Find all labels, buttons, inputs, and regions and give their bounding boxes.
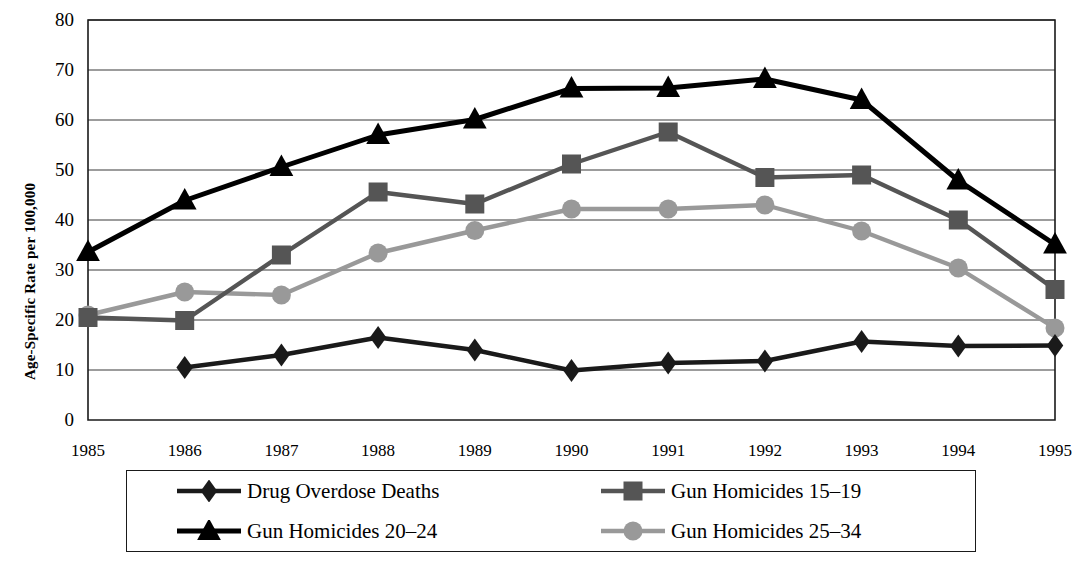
diamond-marker	[757, 350, 774, 373]
diamond-marker	[467, 339, 484, 362]
square-marker	[755, 168, 774, 187]
circle-marker	[852, 222, 871, 241]
diamond-icon	[175, 480, 243, 502]
series-line	[88, 205, 1055, 328]
triangle-marker	[1043, 232, 1067, 254]
legend-label: Gun Homicides 20–24	[247, 519, 437, 544]
square-marker	[79, 308, 98, 327]
diamond-marker	[853, 330, 870, 353]
series-drug-overdose-deaths	[176, 326, 1063, 382]
gridlines	[88, 20, 1055, 370]
square-marker	[659, 123, 678, 142]
square-marker	[175, 311, 194, 330]
data-series-layer	[76, 67, 1067, 383]
circle-marker	[369, 244, 388, 263]
square-marker	[369, 183, 388, 202]
square-marker	[465, 195, 484, 214]
diamond-marker	[660, 352, 677, 375]
circle-marker	[465, 221, 484, 240]
circle-icon	[599, 520, 667, 542]
diamond-marker	[370, 326, 387, 349]
legend-item[interactable]: Gun Homicides 15–19	[551, 479, 975, 504]
circle-marker	[272, 286, 291, 305]
square-marker	[1046, 280, 1065, 299]
legend-label: Drug Overdose Deaths	[247, 479, 439, 504]
square-marker	[624, 482, 643, 501]
chart-figure: Age-Specific Rate per 100,000 0102030405…	[0, 0, 1075, 572]
circle-marker	[755, 196, 774, 215]
diamond-marker	[201, 480, 218, 502]
square-marker	[949, 211, 968, 230]
legend-item[interactable]: Gun Homicides 20–24	[127, 519, 551, 544]
square-marker	[272, 246, 291, 265]
square-marker	[562, 155, 581, 174]
circle-marker	[624, 522, 643, 541]
legend-label: Gun Homicides 15–19	[671, 479, 861, 504]
diamond-marker	[1047, 334, 1064, 357]
circle-marker	[949, 259, 968, 278]
legend-item[interactable]: Drug Overdose Deaths	[127, 479, 551, 504]
legend-label: Gun Homicides 25–34	[671, 519, 861, 544]
series-line	[185, 338, 1055, 371]
square-marker	[852, 166, 871, 185]
diamond-marker	[950, 335, 967, 358]
series-gun-homicides-15-19	[79, 123, 1065, 331]
diamond-marker	[563, 359, 580, 382]
diamond-marker	[273, 344, 290, 367]
legend-item[interactable]: Gun Homicides 25–34	[551, 519, 975, 544]
diamond-marker	[176, 356, 193, 379]
chart-legend: Drug Overdose DeathsGun Homicides 15–19G…	[126, 470, 976, 552]
circle-marker	[659, 200, 678, 219]
square-icon	[599, 480, 667, 502]
series-gun-homicides-25-34	[79, 196, 1065, 338]
circle-marker	[175, 283, 194, 302]
circle-marker	[562, 200, 581, 219]
triangle-icon	[175, 520, 243, 542]
